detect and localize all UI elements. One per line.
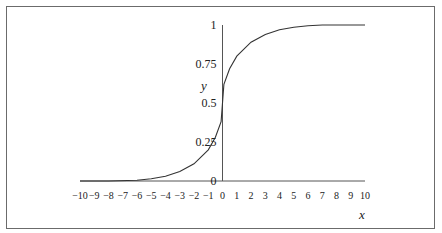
x-tick-label: −10 (72, 190, 88, 201)
y-tick-labels: 00.250.50.751 (196, 18, 217, 188)
x-tick-label: −4 (160, 190, 171, 201)
y-axis-label: y (199, 78, 207, 93)
x-tick-label: 5 (291, 190, 296, 201)
x-tick-label: 9 (348, 190, 353, 201)
x-tick-label: 4 (277, 190, 282, 201)
y-tick-label: 1 (211, 18, 217, 32)
x-tick-labels: −10−9−8−7−6−5−4−3−2−1012345678910 (72, 190, 370, 201)
x-axis-label: x (358, 207, 365, 222)
x-tick-label: −8 (103, 190, 114, 201)
y-tick-label: 0.25 (196, 135, 217, 149)
y-tick-label: 0.75 (196, 57, 217, 71)
x-tick-label: 1 (234, 190, 239, 201)
x-tick-label: −7 (117, 190, 128, 201)
x-tick-label: −9 (89, 190, 100, 201)
x-tick-label: 2 (249, 190, 254, 201)
y-tick-label: 0.5 (202, 96, 217, 110)
x-tick-label: −5 (146, 190, 157, 201)
x-tick-label: 8 (334, 190, 339, 201)
x-tick-label: 3 (263, 190, 268, 201)
x-tick-label: −1 (203, 190, 214, 201)
x-tick-label: −6 (132, 190, 143, 201)
y-tick-label: 0 (211, 174, 217, 188)
chart: −10−9−8−7−6−5−4−3−2−1012345678910 00.250… (0, 0, 442, 233)
x-tick-label: 0 (220, 190, 225, 201)
x-tick-label: 7 (320, 190, 325, 201)
x-tick-label: 6 (306, 190, 311, 201)
x-tick-label: −2 (189, 190, 200, 201)
x-tick-label: −3 (174, 190, 185, 201)
x-tick-label: 10 (360, 190, 370, 201)
